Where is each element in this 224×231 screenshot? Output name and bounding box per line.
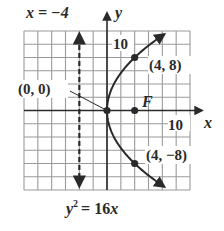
equation-lhs-exp: 2 bbox=[73, 198, 78, 209]
lower-point-label: (4, −8) bbox=[146, 147, 187, 164]
x-axis-label: x bbox=[203, 114, 212, 131]
point-upper-marker bbox=[131, 54, 138, 61]
upper-point-label: (4, 8) bbox=[149, 57, 182, 74]
point-lower-marker bbox=[131, 160, 138, 167]
equation-label: y2= 16x bbox=[64, 198, 118, 218]
vertex-label: (0, 0) bbox=[18, 81, 51, 98]
focus-marker bbox=[131, 107, 138, 114]
vertex-leader-line bbox=[70, 91, 107, 111]
x-tick-label-10: 10 bbox=[168, 117, 183, 133]
y-axis-label: y bbox=[113, 4, 123, 22]
y-tick-label-10: 10 bbox=[113, 36, 128, 52]
equation-rhs: = 16 bbox=[81, 200, 110, 217]
equation-rhs-var: x bbox=[109, 200, 118, 217]
focus-label: F bbox=[141, 93, 153, 110]
vertex-marker bbox=[103, 107, 110, 114]
directrix-label: x = −4 bbox=[25, 4, 69, 21]
parabola-chart: x = −4 y x 10 10 (0, 0) (4, 8) (4, −8) F… bbox=[0, 0, 224, 231]
